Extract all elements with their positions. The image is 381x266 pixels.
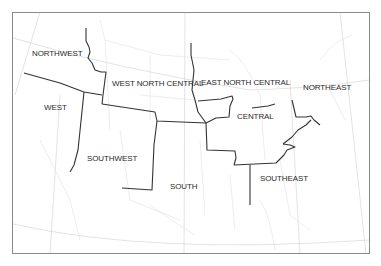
region-label-west: WEST bbox=[44, 104, 67, 112]
state-borders bbox=[40, 20, 352, 250]
region-label-south: SOUTH bbox=[170, 183, 198, 191]
region-label-central: CENTRAL bbox=[237, 113, 274, 121]
us-climate-regions-map bbox=[0, 0, 381, 266]
region-label-west-north-central: WEST NORTH CENTRAL bbox=[112, 80, 203, 88]
region-label-southwest: SOUTHWEST bbox=[87, 155, 137, 163]
region-label-northeast: NORTHEAST bbox=[303, 84, 351, 92]
region-label-east-north-central: EAST NORTH CENTRAL bbox=[201, 79, 290, 87]
region-label-southeast: SOUTHEAST bbox=[260, 175, 308, 183]
region-label-northwest: NORTHWEST bbox=[32, 50, 83, 58]
